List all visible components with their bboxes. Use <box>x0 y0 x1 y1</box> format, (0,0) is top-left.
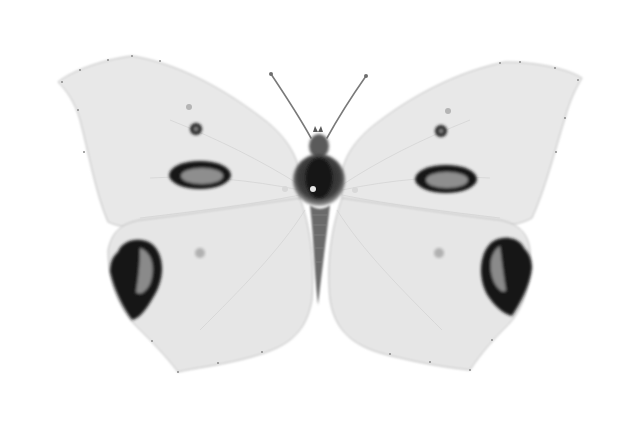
right-wing-base-highlight <box>352 187 358 193</box>
left-antenna-club <box>269 72 273 76</box>
butterfly-photo <box>0 0 643 441</box>
thorax-core <box>306 158 332 198</box>
right-forewing-eyespot <box>415 165 477 193</box>
left-faint-dot <box>186 104 192 110</box>
right-forewing-small-spot <box>435 125 447 137</box>
left-wing-base-highlight <box>282 186 288 192</box>
right-antenna-club <box>364 74 368 78</box>
right-faint-dot <box>445 108 451 114</box>
butterfly-illustration <box>0 0 643 441</box>
thorax-highlight <box>310 186 316 192</box>
right-hindwing-small-spot <box>434 248 444 258</box>
left-forewing-small-spot <box>190 123 202 135</box>
left-hindwing-small-spot <box>195 248 205 258</box>
left-forewing-eyespot <box>169 161 231 189</box>
